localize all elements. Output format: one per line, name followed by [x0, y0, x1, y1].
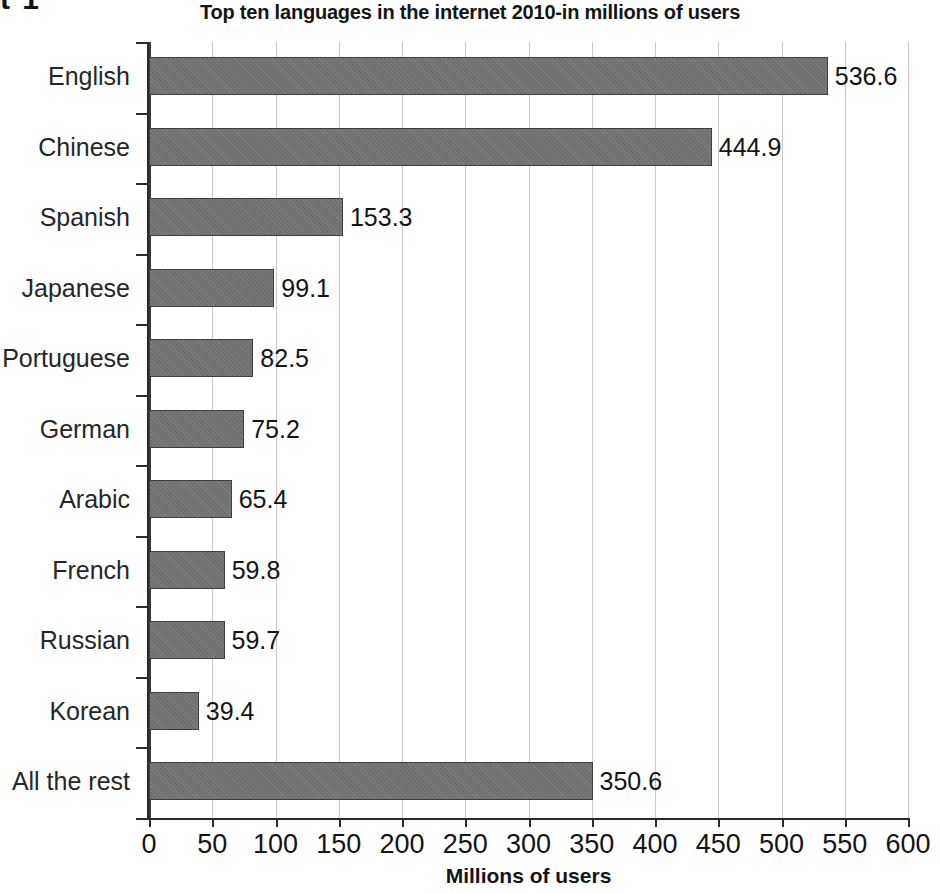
x-tick-250	[465, 818, 467, 827]
y-tick-10	[136, 818, 148, 820]
y-tick-7	[136, 606, 148, 608]
x-tick-350	[592, 818, 594, 827]
bar-english	[149, 57, 828, 95]
x-tick-450	[718, 818, 720, 827]
category-label-russian: Russian	[0, 606, 130, 674]
x-tick-600	[908, 818, 910, 827]
bar-row: 99.1	[149, 254, 908, 322]
category-label-french: French	[0, 536, 130, 604]
x-tick-150	[339, 818, 341, 827]
bar-value-all-the-rest: 350.6	[593, 762, 663, 800]
category-label-arabic: Arabic	[0, 465, 130, 533]
x-tick-100	[276, 818, 278, 827]
bar-value-chinese: 444.9	[712, 128, 782, 166]
category-label-chinese: Chinese	[0, 113, 130, 181]
x-tick-label-350: 350	[569, 829, 614, 860]
y-tick-2	[136, 254, 148, 256]
bar-row: 59.8	[149, 536, 908, 604]
bar-chart: Millions of users 0501001502002503003504…	[0, 0, 940, 893]
bar-value-german: 75.2	[244, 410, 300, 448]
y-tick-0	[136, 113, 148, 115]
x-tick-label-50: 50	[197, 829, 227, 860]
x-tick-label-450: 450	[696, 829, 741, 860]
bar-row: 82.5	[149, 324, 908, 392]
bar-korean	[149, 692, 199, 730]
y-tick-8	[136, 677, 148, 679]
category-label-portuguese: Portuguese	[0, 324, 130, 392]
x-tick-label-400: 400	[632, 829, 677, 860]
x-tick-label-0: 0	[141, 829, 156, 860]
bar-spanish	[149, 198, 343, 236]
x-tick-0	[149, 818, 151, 827]
x-tick-50	[212, 818, 214, 827]
x-tick-label-150: 150	[316, 829, 361, 860]
bar-russian	[149, 621, 225, 659]
x-tick-label-500: 500	[759, 829, 804, 860]
y-tick-top	[136, 42, 148, 44]
y-tick-9	[136, 747, 148, 749]
bar-row: 59.7	[149, 606, 908, 674]
x-tick-label-200: 200	[379, 829, 424, 860]
bar-row: 444.9	[149, 113, 908, 181]
category-label-all-the-rest: All the rest	[0, 747, 130, 815]
gridline-600	[908, 42, 909, 818]
category-label-japanese: Japanese	[0, 254, 130, 322]
bar-french	[149, 551, 225, 589]
bar-value-portuguese: 82.5	[253, 339, 309, 377]
x-tick-300	[529, 818, 531, 827]
x-axis-title: Millions of users	[149, 864, 908, 888]
y-tick-6	[136, 536, 148, 538]
x-tick-400	[655, 818, 657, 827]
x-tick-label-250: 250	[443, 829, 488, 860]
bar-portuguese	[149, 339, 253, 377]
bar-value-korean: 39.4	[199, 692, 255, 730]
category-label-korean: Korean	[0, 677, 130, 745]
bar-value-french: 59.8	[225, 551, 281, 589]
y-tick-5	[136, 465, 148, 467]
category-label-german: German	[0, 395, 130, 463]
bar-value-japanese: 99.1	[274, 269, 330, 307]
bar-value-arabic: 65.4	[232, 480, 288, 518]
y-tick-4	[136, 395, 148, 397]
bar-value-english: 536.6	[828, 57, 898, 95]
bar-value-spanish: 153.3	[343, 198, 413, 236]
x-tick-label-600: 600	[885, 829, 930, 860]
x-tick-200	[402, 818, 404, 827]
category-label-english: English	[0, 42, 130, 110]
y-tick-1	[136, 183, 148, 185]
bar-row: 153.3	[149, 183, 908, 251]
x-tick-550	[845, 818, 847, 827]
bar-row: 75.2	[149, 395, 908, 463]
x-tick-500	[782, 818, 784, 827]
bar-value-russian: 59.7	[225, 621, 281, 659]
bar-chinese	[149, 128, 712, 166]
x-tick-label-100: 100	[253, 829, 298, 860]
bar-german	[149, 410, 244, 448]
bar-all-the-rest	[149, 762, 593, 800]
bar-arabic	[149, 480, 232, 518]
bar-row: 39.4	[149, 677, 908, 745]
category-label-spanish: Spanish	[0, 183, 130, 251]
y-tick-3	[136, 324, 148, 326]
bar-row: 65.4	[149, 465, 908, 533]
x-tick-label-300: 300	[506, 829, 551, 860]
bar-row: 536.6	[149, 42, 908, 110]
x-tick-label-550: 550	[822, 829, 867, 860]
bar-row: 350.6	[149, 747, 908, 815]
bar-japanese	[149, 269, 274, 307]
